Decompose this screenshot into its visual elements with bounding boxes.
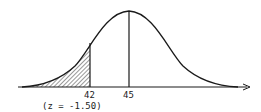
z-score-label: (z = -1.50) [42,101,102,111]
shaded-tail-region [22,43,90,87]
normal-curve-diagram: 42 45 (z = -1.50) [0,0,261,112]
bell-curve [22,11,238,87]
cutoff-label: 42 [84,90,95,100]
mean-label: 45 [123,90,134,100]
